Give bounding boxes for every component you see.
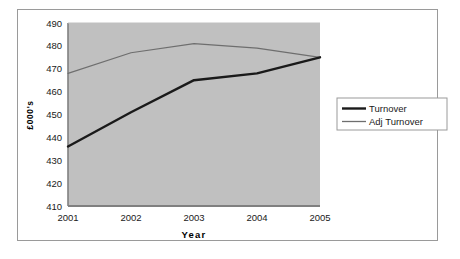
y-tick-label: 420 bbox=[46, 178, 62, 189]
plot-area-background bbox=[68, 23, 320, 206]
y-tick-label: 490 bbox=[46, 18, 62, 29]
x-tick-label: 2001 bbox=[57, 212, 78, 223]
x-axis-tick-labels: 2001 2002 2003 2004 2005 bbox=[57, 212, 330, 223]
x-tick-label: 2005 bbox=[309, 212, 330, 223]
y-tick-label: 410 bbox=[46, 201, 62, 212]
x-tick-label: 2002 bbox=[120, 212, 141, 223]
y-tick-label: 440 bbox=[46, 132, 62, 143]
y-tick-label: 460 bbox=[46, 86, 62, 97]
legend-label-turnover: Turnover bbox=[369, 103, 407, 114]
y-tick-label: 470 bbox=[46, 63, 62, 74]
legend-label-adj-turnover: Adj Turnover bbox=[369, 116, 423, 127]
x-axis-title: Year bbox=[182, 229, 207, 240]
y-tick-label: 480 bbox=[46, 40, 62, 51]
line-chart: 490 480 470 460 450 440 430 420 410 2001… bbox=[0, 0, 460, 259]
y-axis-tick-labels: 490 480 470 460 450 440 430 420 410 bbox=[46, 18, 62, 212]
x-tick-label: 2004 bbox=[246, 212, 267, 223]
chart-legend: Turnover Adj Turnover bbox=[337, 98, 447, 130]
y-tick-label: 450 bbox=[46, 109, 62, 120]
y-tick-label: 430 bbox=[46, 155, 62, 166]
chart-figure: 490 480 470 460 450 440 430 420 410 2001… bbox=[0, 0, 460, 259]
y-axis-title: £000's bbox=[25, 100, 35, 129]
x-tick-label: 2003 bbox=[183, 212, 204, 223]
